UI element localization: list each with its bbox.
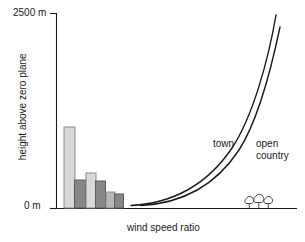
curve-label-open-country-line2: country <box>256 150 289 162</box>
curve-label-town: town <box>213 138 234 150</box>
bar-light-2 <box>86 173 96 208</box>
bar-dark-2 <box>96 181 106 208</box>
tree-icon-2 <box>254 194 264 208</box>
bar-dark-1 <box>75 180 86 208</box>
curve-label-open-country: open country <box>256 138 289 161</box>
y-axis-title: height above zero plane <box>17 37 29 177</box>
chart-canvas <box>0 0 305 242</box>
tree-icon-1 <box>245 196 254 208</box>
tree-cluster-icon <box>245 194 273 208</box>
curve-town <box>131 15 276 206</box>
y-axis-bottom-tick-label: 0 m <box>24 200 41 212</box>
bar-dark-3 <box>115 194 124 208</box>
tree-icon-3 <box>264 196 273 208</box>
x-axis-title: wind speed ratio <box>127 222 200 234</box>
bar-histogram <box>64 127 124 208</box>
bar-light-3 <box>106 192 115 208</box>
curve-label-open-country-line1: open <box>256 138 289 150</box>
bar-light-1 <box>64 127 75 208</box>
wind-profile-figure: 2500 m 0 m height above zero plane wind … <box>0 0 305 242</box>
curve-open-country <box>141 27 280 206</box>
y-axis-top-tick-label: 2500 m <box>13 7 46 19</box>
